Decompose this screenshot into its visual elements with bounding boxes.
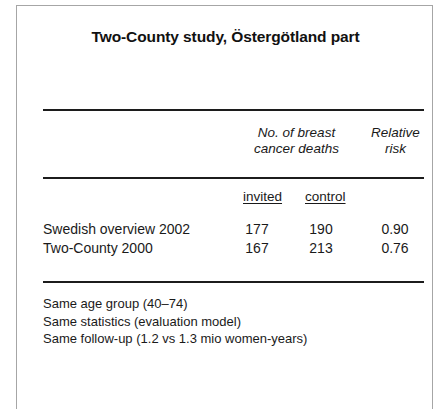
row-label: Two-County 2000 (43, 240, 153, 256)
row-label: Swedish overview 2002 (43, 221, 190, 237)
column-group-header-relative-risk-line2: risk (367, 141, 424, 157)
column-group-header-relative-risk: Relative risk (367, 125, 424, 157)
column-subheader-control: control (305, 189, 346, 204)
cell-relative-risk: 0.76 (367, 240, 423, 256)
column-group-header-deaths-line2: cancer deaths (229, 141, 364, 157)
column-group-header-deaths: No. of breast cancer deaths (229, 125, 364, 157)
cell-invited: 167 (231, 240, 283, 256)
column-subheader-invited: invited (243, 189, 282, 204)
footnote-item: Same follow-up (1.2 vs 1.3 mio women-yea… (43, 330, 413, 348)
cell-control: 213 (295, 240, 347, 256)
footnotes: Same age group (40–74) Same statistics (… (43, 295, 413, 348)
table-rule-top (43, 109, 424, 111)
table-row: Swedish overview 2002 177 190 0.90 (17, 221, 434, 240)
footnote-item: Same age group (40–74) (43, 295, 413, 313)
table-rule-middle (43, 177, 424, 179)
figure-panel: Two-County study, Östergötland part No. … (16, 5, 433, 409)
column-group-header-deaths-line1: No. of breast (258, 125, 335, 140)
cell-control: 190 (295, 221, 347, 237)
table-row: Two-County 2000 167 213 0.76 (17, 240, 434, 259)
footnote-item: Same statistics (evaluation model) (43, 313, 413, 331)
cell-relative-risk: 0.90 (367, 221, 423, 237)
table-rule-bottom (43, 281, 424, 283)
page-title: Two-County study, Östergötland part (17, 28, 434, 46)
column-group-header-relative-risk-line1: Relative (371, 125, 420, 140)
cell-invited: 177 (231, 221, 283, 237)
